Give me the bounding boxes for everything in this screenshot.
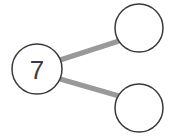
part-circle-top[interactable] (115, 4, 163, 52)
connector-to-top-line (60, 41, 119, 60)
part-circle-bottom[interactable] (115, 84, 163, 132)
number-bond-diagram: 7 (0, 0, 176, 137)
number-bond-svg: 7 (0, 0, 176, 137)
connector-to-bottom-line (60, 79, 119, 96)
whole-circle-value: 7 (30, 55, 44, 85)
